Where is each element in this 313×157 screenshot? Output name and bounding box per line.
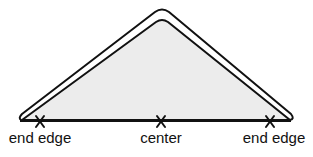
- label-center: center: [140, 129, 182, 147]
- label-right-end-edge: end edge: [243, 129, 306, 147]
- triangle-diagram: end edge center end edge: [0, 0, 313, 157]
- label-left-end-edge: end edge: [9, 129, 72, 147]
- inner-triangle: [22, 20, 290, 120]
